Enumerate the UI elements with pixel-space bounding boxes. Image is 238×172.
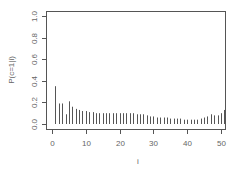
bars xyxy=(56,86,225,124)
x-tick-label: 10 xyxy=(82,139,91,148)
x-axis-label: i xyxy=(137,157,139,166)
y-tick-label: 0.0 xyxy=(30,118,39,130)
x-tick-label: 0 xyxy=(50,139,55,148)
y-tick-label: 0.2 xyxy=(30,96,39,108)
x-tick-label: 40 xyxy=(183,139,192,148)
plot-frame xyxy=(47,12,226,130)
x-tick-label: 20 xyxy=(116,139,125,148)
chart: 0.00.20.40.60.81.0 01020304050 P(c=1|i) … xyxy=(0,0,238,172)
x-axis: 01020304050 xyxy=(50,130,226,149)
y-tick-label: 0.8 xyxy=(30,32,39,44)
y-tick-label: 0.6 xyxy=(30,53,39,65)
x-tick-label: 30 xyxy=(149,139,158,148)
y-tick-label: 0.4 xyxy=(30,75,39,87)
y-tick-label: 1.0 xyxy=(30,10,39,22)
y-axis-label: P(c=1|i) xyxy=(7,56,16,84)
y-axis: 0.00.20.40.60.81.0 xyxy=(30,10,47,130)
x-tick-label: 50 xyxy=(217,139,226,148)
